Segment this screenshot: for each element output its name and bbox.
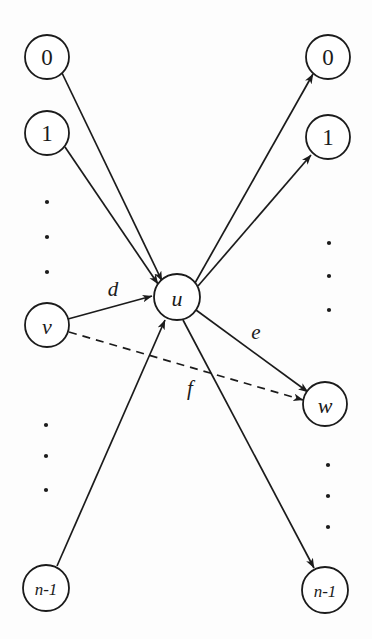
ellipsis-dot	[45, 270, 49, 274]
ellipsis-dot	[326, 494, 330, 498]
node-w[interactable]: w	[303, 382, 347, 426]
node-label: n-1	[314, 582, 337, 601]
edge-label-f: f	[187, 376, 196, 400]
node-label: n-1	[35, 580, 58, 599]
diagram-canvas: 0 1 v n-1 0 1	[0, 0, 372, 639]
node-label: w	[318, 393, 333, 418]
node-label: 0	[41, 45, 53, 70]
ellipsis-dot	[327, 274, 331, 278]
ellipsis-dot	[327, 241, 331, 245]
edge-u-to-zero	[195, 74, 313, 283]
edge-one-to-u	[65, 147, 158, 284]
ellipsis-dot	[327, 308, 331, 312]
edge-nminus1-to-u	[57, 320, 165, 566]
ellipsis-dot	[45, 200, 49, 204]
edge-u-to-one	[198, 155, 311, 286]
node-label: 0	[322, 45, 334, 70]
ellipsis-dot	[45, 235, 49, 239]
ellipsis-dot	[326, 525, 330, 529]
nodes-layer: 0 1 v n-1 0 1	[23, 35, 350, 613]
node-right-zero[interactable]: 0	[306, 35, 350, 79]
edge-label-e: e	[251, 320, 260, 344]
graph-diagram: 0 1 v n-1 0 1	[0, 0, 372, 639]
edges-layer	[57, 73, 314, 568]
edge-zero-to-u	[62, 73, 162, 281]
node-label: 1	[41, 121, 53, 146]
node-right-n-minus-1[interactable]: n-1	[302, 567, 348, 613]
ellipsis-dot	[44, 454, 48, 458]
node-left-zero[interactable]: 0	[25, 35, 69, 79]
node-label: 1	[322, 125, 334, 150]
node-u[interactable]: u	[154, 274, 200, 320]
node-right-one[interactable]: 1	[306, 115, 350, 159]
edge-u-to-nminus1	[183, 320, 314, 568]
edge-label-d: d	[108, 277, 119, 301]
ellipsis-dot	[326, 463, 330, 467]
ellipsis-dot	[44, 423, 48, 427]
node-left-one[interactable]: 1	[25, 111, 69, 155]
node-left-n-minus-1[interactable]: n-1	[23, 565, 69, 611]
node-label: v	[42, 314, 52, 339]
node-v[interactable]: v	[25, 303, 69, 347]
edge-v-to-w-dashed	[69, 332, 303, 400]
ellipsis-dot	[44, 488, 48, 492]
ellipsis-dots-layer	[44, 200, 331, 529]
node-label: u	[172, 286, 183, 311]
